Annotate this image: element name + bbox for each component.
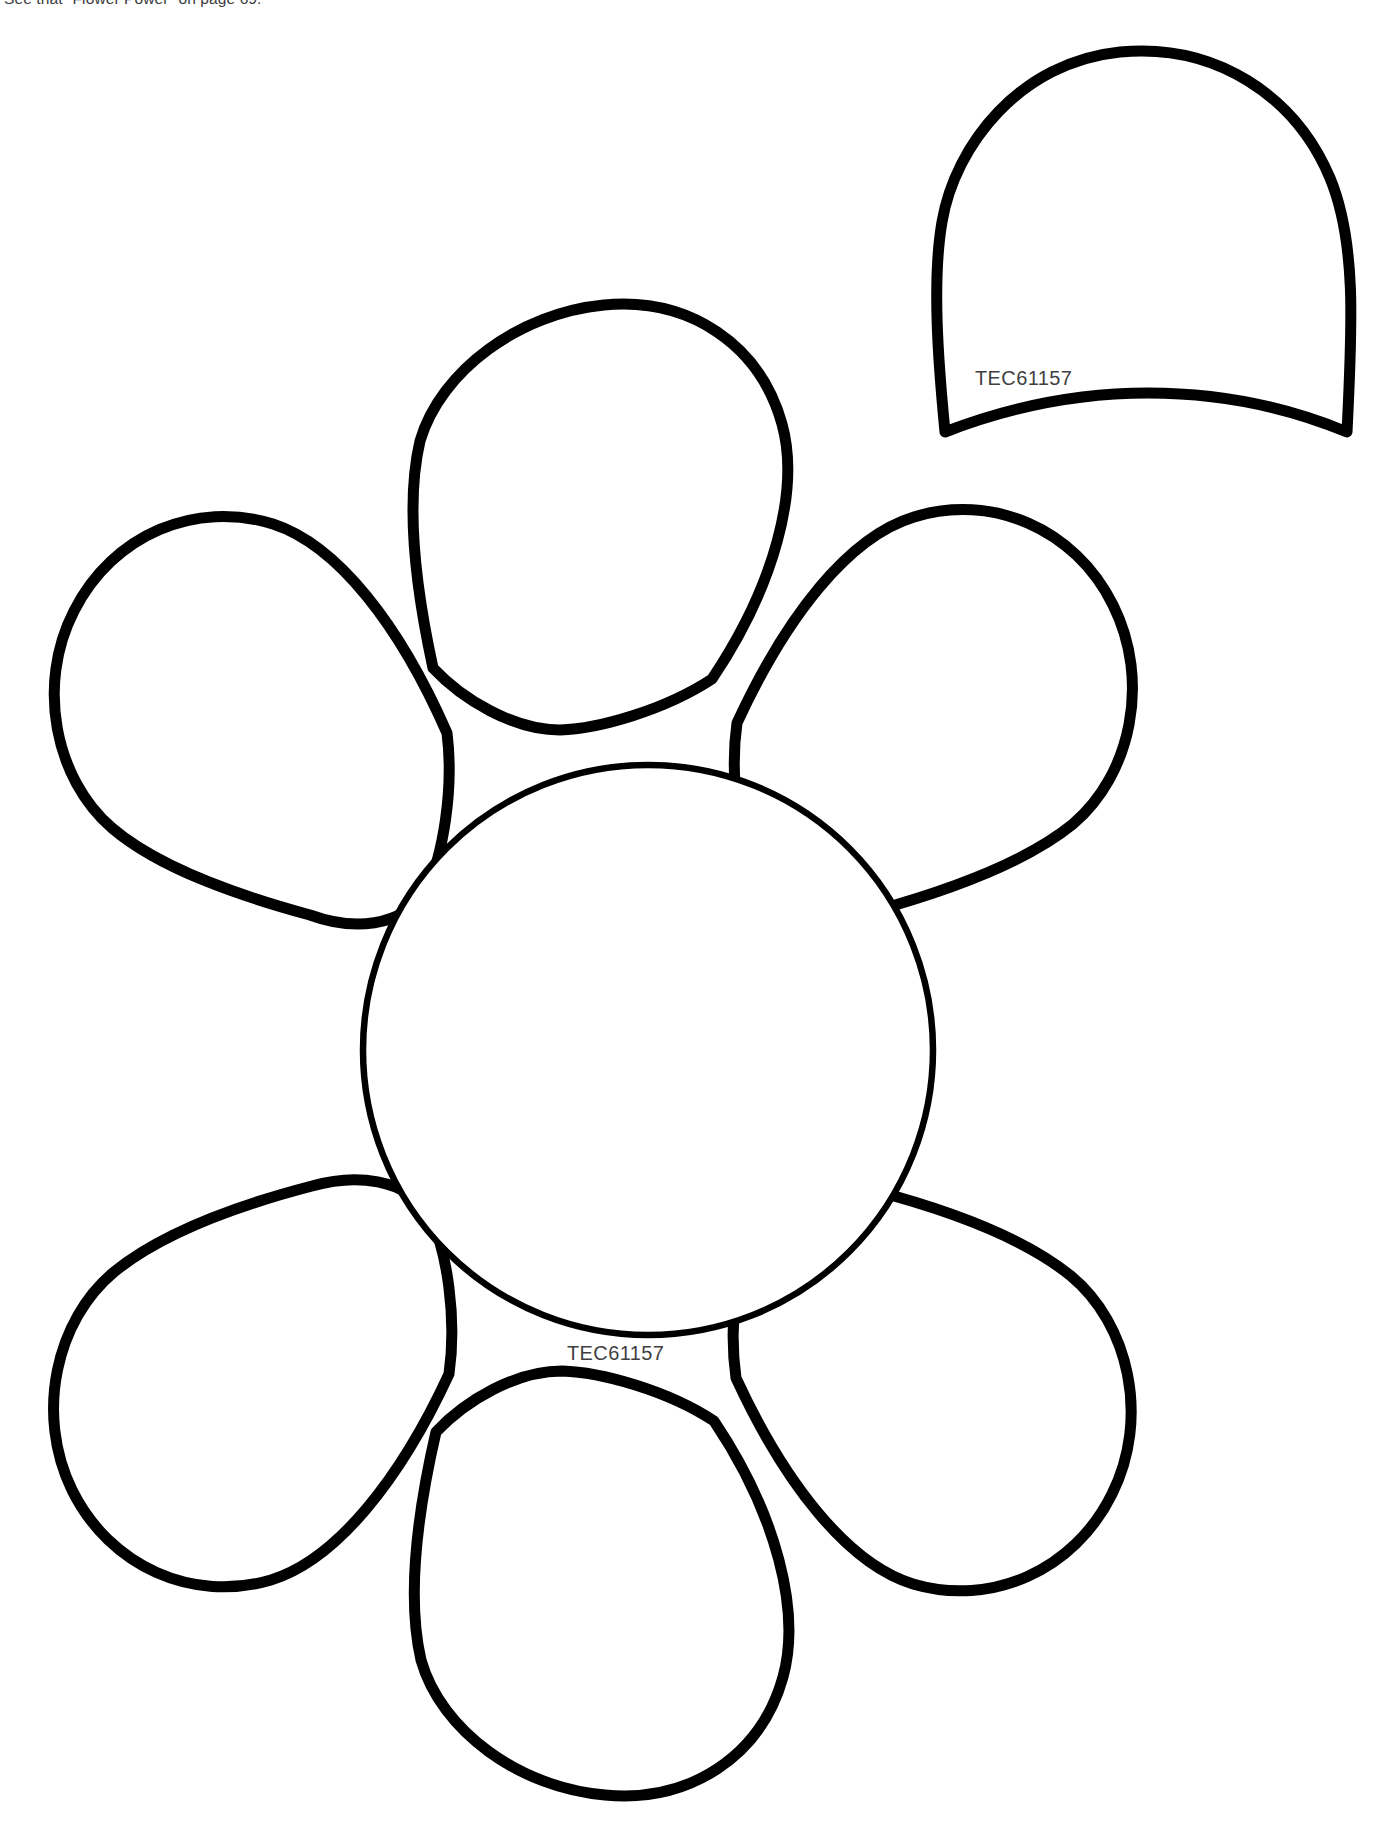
single-petal-code-label: TEC61157: [975, 367, 1072, 389]
flower-petal-upper-left: [54, 516, 449, 924]
pattern-artwork-svg: TEC61157 TEC61157: [0, 0, 1377, 1832]
single-petal-group: TEC61157: [937, 51, 1351, 432]
flower-center-circle: [363, 765, 933, 1335]
pattern-artwork-stage: TEC61157 TEC61157: [0, 0, 1377, 1832]
flower-petal-lower-left: [54, 1180, 452, 1587]
flower-petal-top: [413, 304, 788, 730]
flower-group: TEC61157: [54, 304, 1133, 1796]
flower-center-code-label: TEC61157: [567, 1342, 664, 1364]
flower-petal-bottom: [414, 1371, 789, 1796]
